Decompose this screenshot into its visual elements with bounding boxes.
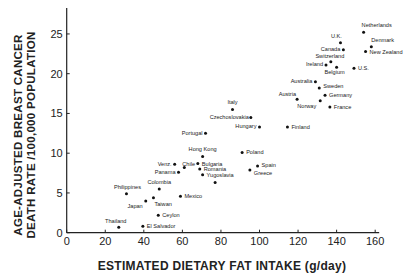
point-marker [258,125,261,128]
x-tick-label: 140 [327,235,345,247]
point-marker [329,60,332,63]
point-label: Belgium [325,69,346,75]
point-marker [125,192,128,195]
point-label: Sweden [323,83,343,89]
point-marker [201,173,204,176]
point-marker [319,99,322,102]
point-label: Hong Kong [189,146,217,152]
point-marker [286,125,289,128]
point-marker [318,87,321,90]
point-label: Venz. [158,161,172,167]
x-tick-label: 0 [64,235,70,247]
point-label: Chile [182,161,195,167]
point-marker [204,132,207,135]
point-marker [248,168,251,171]
data-point: Mexico [179,193,202,199]
point-label: New Zealand [370,49,403,55]
data-point: Hungary [235,123,261,129]
scatter-chart: AGE-ADJUSTED BREAST CANCER DEATH RATE /1… [0,0,415,276]
data-point: Spain [256,162,276,168]
data-point: Canada [321,46,345,52]
point-marker [314,80,317,83]
data-point: Colombia [147,179,172,191]
data-point: Yugoslavia [201,172,234,178]
data-point: Austria [279,91,299,101]
point-label: Japan [127,203,142,209]
point-label: U.S. [358,65,369,71]
point-label: Ireland [306,61,323,67]
y-axis-title-line-1: AGE-ADJUSTED BREAST CANCER [12,34,24,236]
point-marker [296,98,299,101]
x-tick-label: 120 [289,235,307,247]
point-label: Austria [279,91,297,97]
data-point: Czechoslovakia [210,114,253,120]
point-marker [249,116,252,119]
point-marker [241,151,244,154]
data-point: Ireland [306,61,328,67]
point-label: Australia [291,78,314,84]
y-tick-label: 20 [50,68,62,80]
x-tick-label: 40 [138,235,150,247]
data-point: Poland [241,149,264,155]
point-marker [201,155,204,158]
point-marker [325,63,328,66]
data-point: Belgium [325,66,346,76]
x-tick-label: 60 [176,235,188,247]
axes: 0204060801001201401600510152025 [50,8,384,247]
data-point: Thailand [105,218,126,229]
point-marker [158,187,161,190]
point-marker [370,45,373,48]
point-marker [144,199,147,202]
x-axis-title: ESTIMATED DIETARY FAT INTAKE (g/day) [98,259,347,273]
y-axis-title-line-2: DEATH RATE /100,000 POPULATION [25,31,37,238]
point-marker [256,164,259,167]
point-label: Spain [262,162,276,168]
point-label: Ceylon [162,212,179,218]
point-label: Portugal [182,130,203,136]
data-point: Finland [286,124,310,130]
point-label: Norway [297,103,316,109]
point-label: Thailand [105,218,126,224]
point-label: Switzerland [315,53,344,59]
point-marker [231,108,234,111]
point-marker [362,31,365,34]
data-point: Sweden [318,83,344,90]
data-point: Denmark [370,37,394,49]
point-marker [177,171,180,174]
point-marker [214,181,217,184]
x-tick-label: 100 [250,235,268,247]
point-label: Colombia [147,179,172,185]
point-label: Panama [155,169,177,175]
point-marker [196,162,199,165]
point-label: Mexico [184,193,202,199]
point-marker [157,214,160,217]
y-tick-label: 10 [50,147,62,159]
point-label: Taiwan [154,201,171,207]
y-axis-title: AGE-ADJUSTED BREAST CANCER DEATH RATE /1… [12,31,37,238]
data-point: Netherlands [362,22,392,34]
point-marker [342,48,345,51]
point-marker [328,106,331,109]
point-label: Denmark [371,37,394,43]
point-label: El Salvador [147,223,176,229]
point-label: U.K. [331,33,342,39]
point-marker [179,195,182,198]
y-tick-label: 25 [50,28,62,40]
point-label: Czechoslovakia [210,114,250,120]
data-point: Philippines [114,184,141,196]
point-label: Yugoslavia [207,172,235,178]
point-marker [152,196,155,199]
point-marker [352,67,355,70]
data-points: NetherlandsU.K.DenmarkCanadaNew ZealandS… [105,22,402,229]
y-tick-label: 0 [57,227,63,239]
data-point: Norway [297,99,321,109]
x-tick-label: 80 [215,235,227,247]
data-point [214,181,217,184]
point-marker [117,226,120,229]
data-point: New Zealand [364,49,402,55]
point-marker [364,50,367,53]
data-point: Australia [291,78,317,84]
x-tick-label: 20 [99,235,111,247]
data-point: Panama [155,169,180,175]
data-point: Greece [248,168,272,176]
